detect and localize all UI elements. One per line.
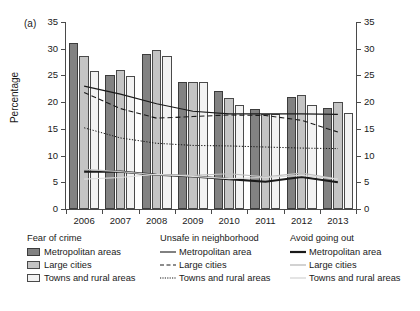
y-tick bbox=[357, 156, 361, 157]
legend-title-fear-of-crime: Fear of crime bbox=[27, 233, 135, 243]
y-tick bbox=[357, 182, 361, 183]
y-tick-label: 35 bbox=[364, 16, 375, 27]
y-tick bbox=[357, 129, 361, 130]
y-tick bbox=[61, 102, 65, 103]
x-tick bbox=[139, 210, 140, 214]
y-tick-label: 5 bbox=[53, 176, 58, 187]
x-tick-label: 2010 bbox=[209, 215, 249, 226]
legend-group-fear-of-crime: Fear of crime Metropolitan areas Large c… bbox=[27, 233, 135, 285]
x-tick bbox=[102, 210, 103, 214]
swatch-metropolitan-icon bbox=[27, 248, 40, 256]
x-tick-label: 2013 bbox=[318, 215, 358, 226]
legend-label: Large cities bbox=[44, 260, 92, 271]
y-tick-label: 20 bbox=[47, 96, 58, 107]
y-tick bbox=[61, 182, 65, 183]
x-tick bbox=[211, 210, 212, 214]
line-lighter-icon bbox=[290, 274, 306, 282]
legend-item-unsafe-towns: Towns and rural areas bbox=[160, 272, 270, 285]
swatch-towns-icon bbox=[27, 274, 40, 282]
legend-item-avoid-large-cities: Large cities bbox=[290, 259, 400, 272]
x-tick-label: 2007 bbox=[100, 215, 140, 226]
x-tick bbox=[175, 210, 176, 214]
x-tick-label: 2011 bbox=[245, 215, 285, 226]
y-tick bbox=[357, 102, 361, 103]
legend-item-avoid-towns: Towns and rural areas bbox=[290, 272, 400, 285]
legend-item-fear-metropolitan: Metropolitan areas bbox=[27, 246, 135, 259]
legend-title-unsafe: Unsafe in neighborhood bbox=[160, 233, 270, 243]
x-tick bbox=[66, 210, 67, 214]
line-solid-icon bbox=[160, 248, 176, 256]
legend-title-avoid: Avoid going out bbox=[290, 233, 400, 243]
y-tick-label: 10 bbox=[47, 150, 58, 161]
y-tick bbox=[357, 49, 361, 50]
legend-label: Towns and rural areas bbox=[309, 273, 400, 284]
y-tick-label: 25 bbox=[47, 69, 58, 80]
chart-legend: Fear of crime Metropolitan areas Large c… bbox=[0, 233, 420, 311]
y-tick bbox=[357, 209, 361, 210]
y-tick-label: 20 bbox=[364, 96, 375, 107]
y-tick bbox=[61, 75, 65, 76]
legend-item-avoid-metropolitan: Metropolitan area bbox=[290, 246, 400, 259]
line-dashed-icon bbox=[160, 261, 176, 269]
legend-label: Towns and rural areas bbox=[179, 273, 270, 284]
y-tick bbox=[357, 22, 361, 23]
x-tick bbox=[247, 210, 248, 214]
y-tick-label: 15 bbox=[47, 123, 58, 134]
swatch-large-cities-icon bbox=[27, 261, 40, 269]
y-tick bbox=[61, 129, 65, 130]
y-tick-label: 10 bbox=[364, 150, 375, 161]
y-tick-label: 0 bbox=[53, 203, 58, 214]
panel-label: (a) bbox=[24, 18, 36, 29]
y-tick-label: 30 bbox=[47, 43, 58, 54]
legend-item-unsafe-metropolitan: Metropolitan area bbox=[160, 246, 270, 259]
legend-group-unsafe-in-neighborhood: Unsafe in neighborhood Metropolitan area… bbox=[160, 233, 270, 285]
x-tick-label: 2008 bbox=[137, 215, 177, 226]
y-tick bbox=[357, 75, 361, 76]
legend-label: Large cities bbox=[309, 260, 357, 271]
x-tick bbox=[284, 210, 285, 214]
y-tick bbox=[61, 209, 65, 210]
y-tick-label: 30 bbox=[364, 43, 375, 54]
y-axis-title: Percentage bbox=[9, 53, 20, 143]
y-tick-label: 25 bbox=[364, 69, 375, 80]
line-series bbox=[84, 86, 338, 114]
y-tick-label: 35 bbox=[47, 16, 58, 27]
chart-figure: (a) Percentage 0055101015152020252530303… bbox=[0, 0, 420, 311]
line-light-icon bbox=[290, 261, 306, 269]
x-tick-label: 2009 bbox=[173, 215, 213, 226]
legend-item-fear-towns: Towns and rural areas bbox=[27, 272, 135, 285]
legend-item-unsafe-large-cities: Large cities bbox=[160, 259, 270, 272]
legend-label: Towns and rural areas bbox=[44, 273, 135, 284]
y-tick bbox=[61, 156, 65, 157]
legend-label: Metropolitan area bbox=[179, 247, 251, 258]
line-thick-icon bbox=[290, 248, 306, 256]
y-tick-label: 15 bbox=[364, 123, 375, 134]
line-layer bbox=[66, 22, 356, 209]
line-series bbox=[84, 128, 338, 149]
legend-label: Large cities bbox=[179, 260, 227, 271]
legend-label: Metropolitan areas bbox=[44, 247, 121, 258]
line-dotted-icon bbox=[160, 274, 176, 282]
y-tick-label: 5 bbox=[364, 176, 369, 187]
x-tick bbox=[356, 210, 357, 214]
y-tick bbox=[61, 22, 65, 23]
y-tick bbox=[61, 49, 65, 50]
legend-group-avoid-going-out: Avoid going out Metropolitan area Large … bbox=[290, 233, 400, 285]
legend-label: Metropolitan area bbox=[309, 247, 381, 258]
x-tick-label: 2012 bbox=[282, 215, 322, 226]
x-tick-label: 2006 bbox=[64, 215, 104, 226]
x-tick bbox=[320, 210, 321, 214]
legend-item-fear-large-cities: Large cities bbox=[27, 259, 135, 272]
y-tick-label: 0 bbox=[364, 203, 369, 214]
